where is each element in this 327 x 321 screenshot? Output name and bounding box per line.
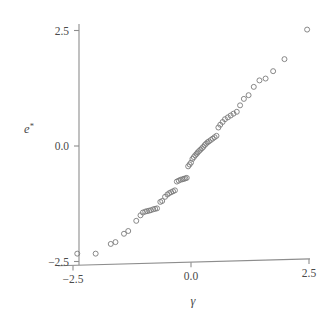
data-point [238, 103, 243, 108]
y-axis-ticks [74, 31, 79, 262]
data-point [251, 84, 256, 89]
data-point [246, 93, 251, 98]
data-point-series [75, 27, 310, 256]
data-point [257, 78, 262, 83]
x-axis-title: γ [191, 294, 197, 308]
data-point [134, 218, 139, 223]
data-point [108, 241, 113, 246]
scatter-plot-figure: −2.50.02.5 −2.50.02.5 e* γ [0, 0, 327, 321]
data-point [113, 240, 118, 245]
y-axis-title: e* [24, 121, 34, 136]
x-tick-label: 2.5 [302, 267, 317, 279]
data-point [271, 69, 276, 74]
y-axis-tick-labels: −2.50.02.5 [48, 25, 69, 268]
data-point [263, 76, 268, 81]
data-point [198, 147, 203, 152]
x-axis-line [58, 259, 310, 266]
data-point [305, 27, 310, 32]
data-point [282, 57, 287, 62]
x-tick-label: 0.0 [184, 270, 199, 282]
plot-canvas: −2.50.02.5 −2.50.02.5 e* γ [0, 0, 327, 321]
data-point [126, 229, 131, 234]
data-point [93, 251, 98, 256]
data-point [241, 96, 246, 101]
y-tick-label: 0.0 [55, 140, 70, 152]
x-axis-tick-labels: −2.50.02.5 [63, 267, 317, 286]
x-tick-label: −2.5 [63, 273, 84, 285]
y-tick-label: −2.5 [48, 256, 69, 268]
axes-group [58, 24, 310, 266]
y-tick-label: 2.5 [55, 25, 70, 37]
data-point [199, 146, 204, 151]
